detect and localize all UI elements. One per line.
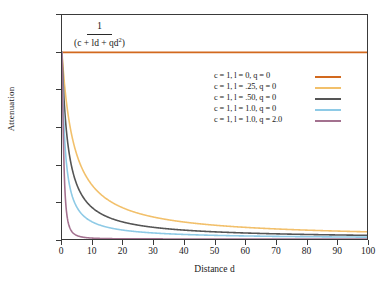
legend-row: c = 1, l = 1.0, q = 2.0 bbox=[214, 115, 341, 126]
x-axis-tick-label: 100 bbox=[348, 247, 382, 257]
x-axis-tick-mark bbox=[337, 240, 338, 245]
legend-row: c = 1, l = 0, q = 0 bbox=[214, 71, 341, 82]
legend-row: c = 1, l = .50, q = 0 bbox=[214, 93, 341, 104]
legend-label: c = 1, l = .25, q = 0 bbox=[214, 83, 311, 91]
x-axis-title: Distance d bbox=[61, 264, 368, 274]
formula-numerator: 1 bbox=[87, 20, 112, 35]
legend-row: c = 1, l = 1.0, q = 0 bbox=[214, 104, 341, 115]
x-axis-tick-mark bbox=[245, 240, 246, 245]
legend: c = 1, l = 0, q = 0c = 1, l = .25, q = 0… bbox=[214, 71, 341, 126]
legend-label: c = 1, l = 0, q = 0 bbox=[214, 72, 311, 80]
formula-denominator: (c + ld + qd2) bbox=[74, 35, 125, 50]
y-axis-title: Attenuation bbox=[6, 54, 16, 164]
x-axis-tick-mark bbox=[184, 240, 185, 245]
legend-color-swatch bbox=[315, 109, 341, 111]
legend-color-swatch bbox=[315, 120, 341, 122]
x-axis-tick-mark bbox=[122, 240, 123, 245]
formula-denominator-suffix: ) bbox=[122, 38, 125, 48]
legend-label: c = 1, l = 1.0, q = 2.0 bbox=[214, 116, 311, 124]
legend-color-swatch bbox=[315, 76, 341, 78]
legend-label: c = 1, l = 1.0, q = 0 bbox=[214, 105, 311, 113]
x-axis-tick-mark bbox=[153, 240, 154, 245]
x-axis-tick-mark bbox=[215, 240, 216, 245]
x-axis-tick-mark bbox=[92, 240, 93, 245]
x-axis-tick-mark bbox=[61, 240, 62, 245]
x-axis-tick-mark bbox=[368, 240, 369, 245]
x-axis-tick-mark bbox=[307, 240, 308, 245]
x-axis-tick-mark bbox=[276, 240, 277, 245]
formula-annotation: 1 (c + ld + qd2) bbox=[66, 19, 133, 52]
attenuation-chart-figure: Attenuation 1.210.80.60.40.20 1 (c + ld … bbox=[0, 0, 382, 292]
formula-denominator-prefix: (c + ld + qd bbox=[74, 38, 119, 48]
legend-color-swatch bbox=[315, 98, 341, 100]
legend-row: c = 1, l = .25, q = 0 bbox=[214, 82, 341, 93]
plot-area: 1 (c + ld + qd2) c = 1, l = 0, q = 0c = … bbox=[61, 14, 368, 240]
legend-color-swatch bbox=[315, 87, 341, 89]
legend-label: c = 1, l = .50, q = 0 bbox=[214, 94, 311, 102]
